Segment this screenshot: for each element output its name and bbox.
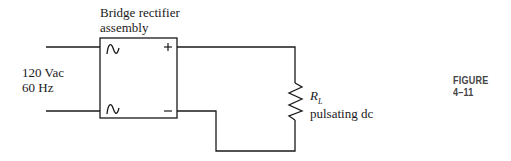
ac-sine-icon-bottom bbox=[107, 105, 119, 114]
source-label: 120 Vac 60 Hz bbox=[22, 65, 64, 95]
load-resistor-icon bbox=[289, 83, 302, 120]
ac-sine-icon-top bbox=[107, 45, 119, 54]
load-label: RL pulsating dc bbox=[310, 88, 373, 121]
figure-caption: FIGURE 4–11 bbox=[453, 74, 501, 98]
positive-output-wire bbox=[177, 47, 295, 83]
negative-output-wire bbox=[177, 111, 295, 151]
circuit-diagram bbox=[0, 0, 511, 161]
bridge-label: Bridge rectifier assembly bbox=[100, 5, 180, 35]
